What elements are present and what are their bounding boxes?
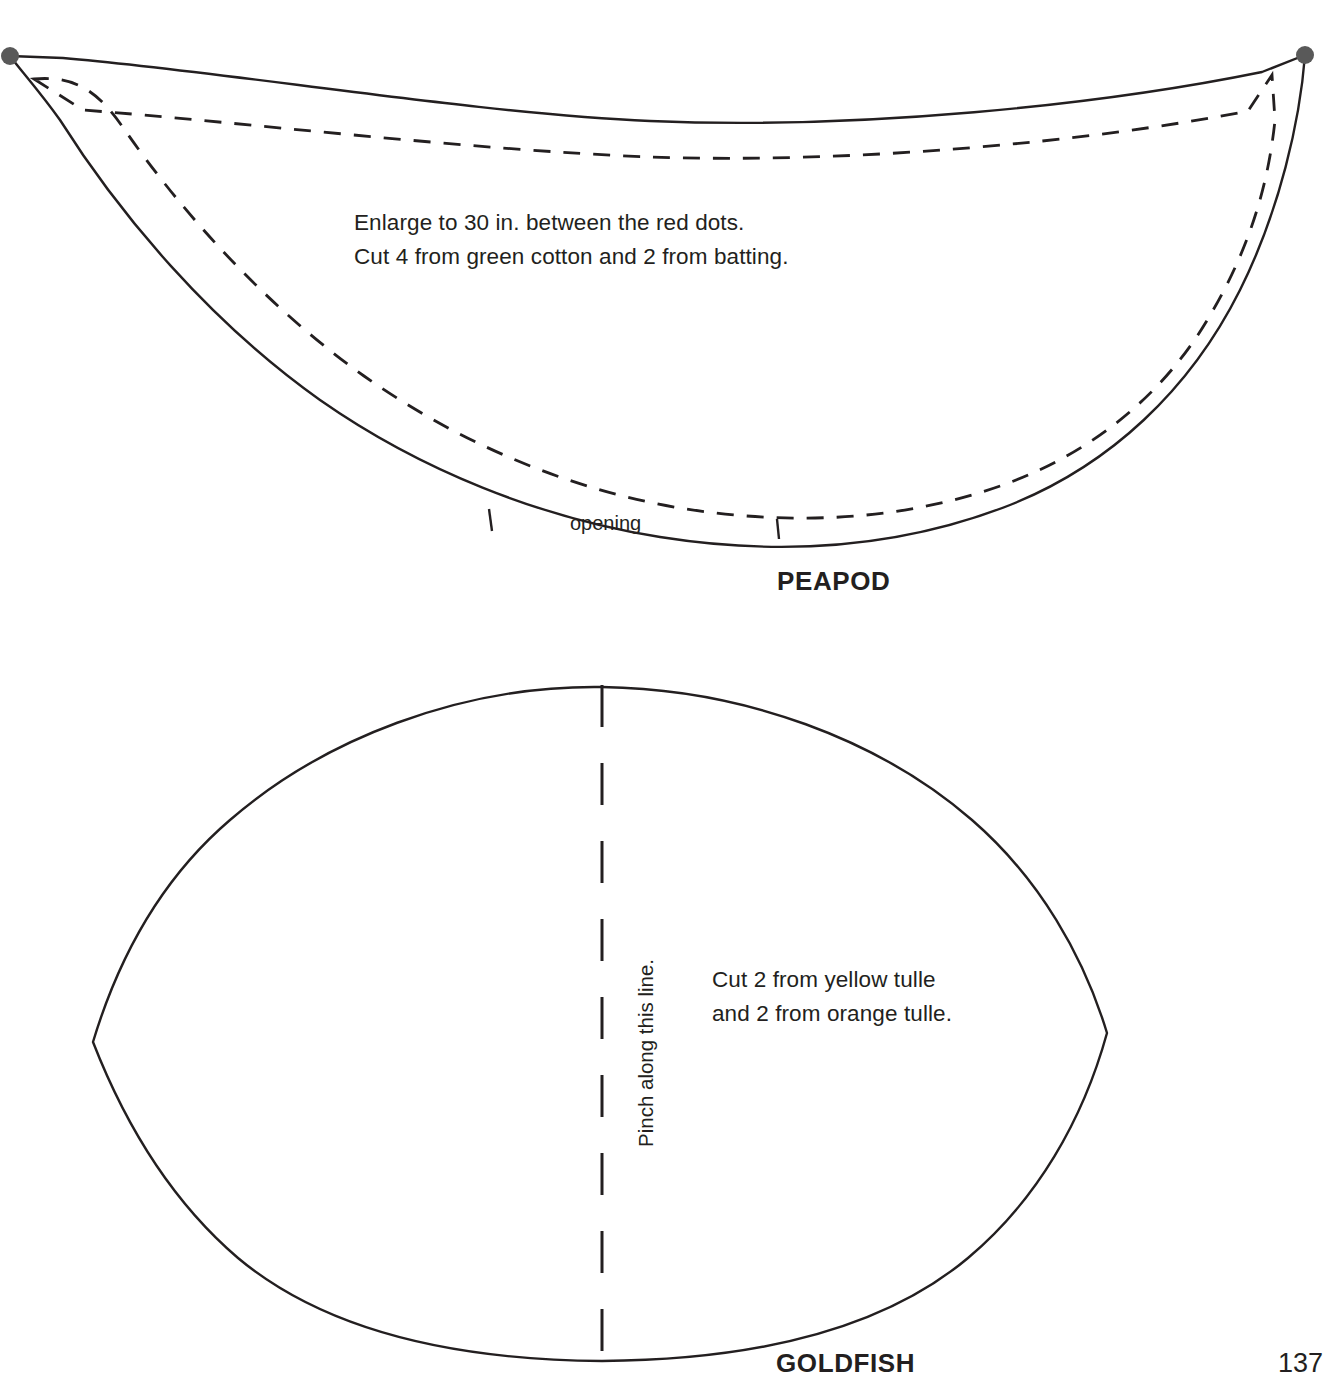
peapod-cut-line xyxy=(10,55,1305,547)
peapod-pattern-piece xyxy=(1,46,1314,547)
peapod-red-dot-left xyxy=(1,47,19,65)
goldfish-title: GOLDFISH xyxy=(776,1348,915,1379)
peapod-opening-tick-left xyxy=(489,509,492,531)
peapod-title: PEAPOD xyxy=(777,566,890,597)
pattern-sheet-page: Enlarge to 30 in. between the red dots. … xyxy=(0,0,1340,1385)
goldfish-fold-label: Pinch along this line. xyxy=(634,959,658,1147)
peapod-instruction-line-2: Cut 4 from green cotton and 2 from batti… xyxy=(354,240,789,274)
peapod-opening-label: opening xyxy=(570,512,641,535)
peapod-instruction-line-1: Enlarge to 30 in. between the red dots. xyxy=(354,206,789,240)
goldfish-cut-line xyxy=(93,687,1107,1361)
goldfish-pattern-piece xyxy=(93,685,1107,1362)
goldfish-instruction-line-1: Cut 2 from yellow tulle xyxy=(712,963,952,997)
page-number: 137 xyxy=(1278,1348,1323,1379)
peapod-red-dot-right xyxy=(1296,46,1314,64)
peapod-instructions: Enlarge to 30 in. between the red dots. … xyxy=(354,206,789,274)
peapod-opening-tick-right xyxy=(777,519,779,539)
peapod-seam-line xyxy=(34,75,1275,518)
goldfish-instruction-line-2: and 2 from orange tulle. xyxy=(712,997,952,1031)
goldfish-instructions: Cut 2 from yellow tulle and 2 from orang… xyxy=(712,963,952,1031)
